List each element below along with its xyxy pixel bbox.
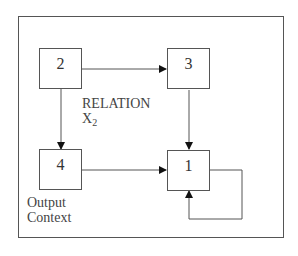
relation-var: X (82, 111, 92, 126)
relation-subscript: 2 (92, 117, 97, 128)
relation-text: RELATION (82, 96, 150, 111)
node-2-label: 2 (57, 55, 65, 72)
relation-label: RELATION X2 (82, 96, 150, 130)
node-4-label: 4 (57, 156, 65, 173)
context-text: Context (27, 210, 71, 225)
node-1-label: 1 (185, 157, 193, 174)
node-3-label: 3 (185, 55, 193, 72)
output-context-label: Output Context (27, 195, 71, 225)
node-4: 4 (39, 149, 82, 190)
node-1: 1 (167, 150, 210, 191)
node-2: 2 (39, 48, 82, 89)
diagram-canvas: 2 3 4 1 RELATION X2 Output Context (0, 0, 298, 256)
output-text: Output (27, 195, 66, 210)
node-3: 3 (167, 48, 210, 89)
